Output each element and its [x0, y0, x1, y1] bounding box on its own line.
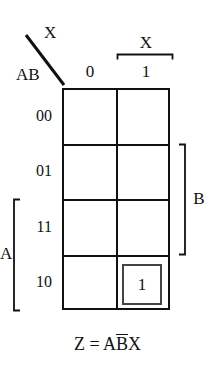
equation-term-b-negated: B [116, 334, 128, 354]
row-label-00: 00 [22, 88, 52, 144]
row-label-11: 11 [22, 199, 52, 255]
bracket-a-icon [12, 198, 21, 312]
equation-term-a: A [103, 334, 116, 354]
corner-row-variable-label: AB [16, 66, 40, 83]
kmap-grid: 1 [62, 88, 170, 310]
kmap-cell-01-1[interactable] [116, 146, 168, 200]
equation-lhs: Z [74, 334, 85, 354]
equation-equals: = [89, 334, 99, 354]
row-label-01: 01 [22, 144, 52, 200]
bracket-b-label: B [190, 190, 208, 207]
column-group-label-x: X [118, 34, 174, 51]
cell-value: 1 [138, 276, 147, 293]
kmap-cell-11-1[interactable] [116, 201, 168, 255]
column-header-1: 1 [118, 63, 174, 80]
kmap-cell-00-1[interactable] [116, 90, 168, 144]
bracket-b-icon [178, 143, 187, 256]
corner-column-variable-label: X [44, 24, 56, 41]
equation-term-x: X [128, 334, 141, 354]
kmap-cell-10-1[interactable]: 1 [116, 257, 168, 313]
kmap-row-00 [64, 90, 168, 146]
bracket-a-label: A [0, 245, 12, 262]
column-group-brace-icon [116, 53, 174, 60]
kmap-cell-11-0[interactable] [64, 201, 116, 255]
kmap-cell-10-0[interactable] [64, 257, 116, 313]
minterm-group-box: 1 [122, 264, 162, 305]
kmap-cell-01-0[interactable] [64, 146, 116, 200]
kmap-row-10: 1 [64, 257, 168, 313]
kmap-row-11 [64, 201, 168, 257]
row-label-10: 10 [22, 255, 52, 311]
column-header-0: 0 [62, 63, 118, 80]
karnaugh-map-figure: X AB X 0 1 00 01 11 10 A B [0, 0, 215, 378]
kmap-cell-00-0[interactable] [64, 90, 116, 144]
result-equation: Z = ABX [0, 334, 215, 354]
kmap-row-01 [64, 146, 168, 202]
